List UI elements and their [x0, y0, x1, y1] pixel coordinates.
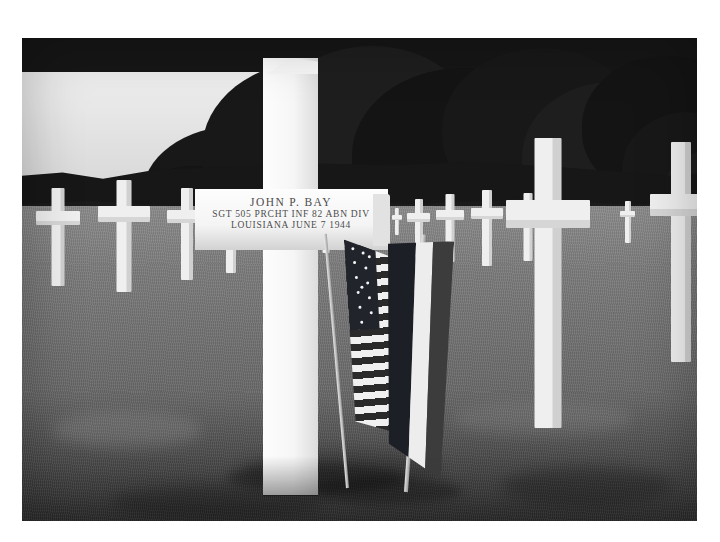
- photograph-image: JOHN P. BAY SGT 505 PRCHT INF 82 ABN DIV…: [22, 38, 697, 521]
- marker-shaft: [263, 58, 318, 495]
- marker-inscription: JOHN P. BAY SGT 505 PRCHT INF 82 ABN DIV…: [197, 196, 385, 230]
- background-cross: [98, 180, 150, 292]
- marker-base-shadow: [263, 456, 318, 496]
- background-cross: [36, 188, 80, 286]
- inscription-state-date: LOUISIANA JUNE 7 1944: [197, 220, 385, 230]
- background-cross: [650, 142, 697, 362]
- background-cross: [471, 190, 503, 266]
- photograph-page: JOHN P. BAY SGT 505 PRCHT INF 82 ABN DIV…: [0, 0, 720, 542]
- inscription-name: JOHN P. BAY: [197, 196, 385, 208]
- background-cross: [620, 201, 635, 243]
- background-cross: [506, 138, 590, 428]
- inscription-unit: SGT 505 PRCHT INF 82 ABN DIV: [197, 209, 385, 219]
